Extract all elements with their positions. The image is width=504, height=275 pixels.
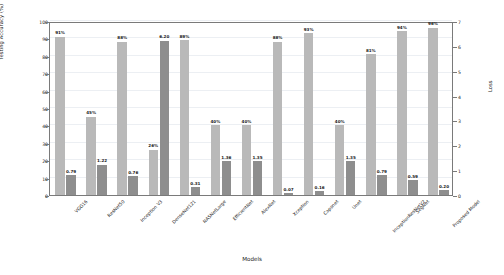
bar-loss (191, 187, 201, 195)
bar-accuracy (428, 28, 438, 195)
bar-chart: Testing Accuracy (%) Loss Models 0102030… (0, 0, 504, 275)
bar-accuracy (242, 125, 252, 195)
bar-value-label-accuracy: 45% (86, 110, 96, 115)
bar-value-label-accuracy: 81% (366, 48, 376, 53)
y-tick-mark-right (453, 47, 457, 48)
bar-value-label-loss: 0.16 (315, 185, 325, 190)
y-tick-mark-right (453, 121, 457, 122)
bar-value-label-accuracy: 91% (55, 30, 65, 35)
bar-accuracy (304, 33, 314, 195)
bar-value-label-accuracy: 88% (117, 35, 127, 40)
gridline (50, 107, 452, 108)
gridline (50, 55, 452, 56)
x-axis-label: Unet (351, 199, 362, 210)
y-axis-left-title: Testing Accuracy (%) (0, 0, 4, 60)
bar-value-label-loss: 0.20 (439, 184, 449, 189)
y-tick-label-right: 7 (458, 20, 478, 25)
bar-loss (128, 176, 138, 195)
bar-value-label-loss: 0.76 (128, 170, 138, 175)
bar-value-label-loss: 1.22 (97, 158, 107, 163)
bar-loss (160, 41, 170, 195)
y-tick-label-right: 6 (458, 44, 478, 49)
x-axis-label: Capsnet (323, 199, 340, 216)
gridline (50, 90, 452, 91)
bar-accuracy (55, 37, 65, 195)
y-tick-mark-right (453, 72, 457, 73)
x-axis-label: VGG16 (73, 199, 88, 214)
y-tick-label-right: 4 (458, 94, 478, 99)
y-tick-label-right: 5 (458, 69, 478, 74)
bar-value-label-accuracy: 40% (211, 119, 221, 124)
y-tick-mark-right (453, 22, 457, 23)
y-tick-label-right: 0 (458, 194, 478, 199)
x-axis-label: Inception V3 (139, 199, 163, 223)
gridline (50, 37, 452, 38)
y-tick-mark-left (45, 196, 49, 197)
y-tick-mark-right (453, 196, 457, 197)
y-tick-mark-right (453, 146, 457, 147)
bar-accuracy (273, 42, 283, 195)
bar-loss (222, 161, 232, 195)
bar-value-label-loss: 1.36 (221, 155, 231, 160)
x-axis-label: EfficientNet (232, 199, 254, 221)
bar-loss (66, 175, 76, 195)
bar-value-label-loss: 1.35 (252, 155, 262, 160)
bar-accuracy (335, 125, 345, 195)
x-axis-title: Models (0, 256, 504, 262)
bar-value-label-accuracy: 40% (335, 119, 345, 124)
y-tick-mark-right (453, 171, 457, 172)
bar-value-label-accuracy: 40% (242, 119, 252, 124)
bar-loss (346, 161, 356, 195)
bar-loss (315, 191, 325, 195)
bar-loss (408, 180, 418, 195)
y-tick-label-right: 1 (458, 169, 478, 174)
bar-value-label-accuracy: 89% (179, 34, 189, 39)
bar-accuracy (211, 125, 221, 195)
bar-value-label-loss: 0.79 (66, 169, 76, 174)
x-axis-label: NASNetLarge (202, 199, 227, 224)
x-axis-label: SegNet (415, 199, 430, 214)
x-axis-label: AlexNet (260, 199, 276, 215)
bar-loss (284, 193, 294, 195)
gridline (50, 72, 452, 73)
bar-loss (377, 175, 387, 195)
bar-value-label-loss: 6.20 (159, 34, 169, 39)
bar-accuracy (397, 31, 407, 195)
bar-value-label-loss: 1.35 (346, 155, 356, 160)
bar-loss (253, 161, 263, 195)
y-tick-label-right: 3 (458, 119, 478, 124)
bar-accuracy (149, 150, 159, 195)
bar-accuracy (86, 117, 96, 195)
bar-loss (439, 190, 449, 195)
bar-value-label-accuracy: 96% (428, 21, 438, 26)
bar-value-label-accuracy: 94% (397, 25, 407, 30)
bar-accuracy (366, 54, 376, 195)
x-axis-label: ResNet50 (106, 199, 125, 218)
plot-area: 91%0.7945%1.2288%0.7626%6.2089%0.3140%1.… (49, 22, 453, 196)
bar-value-label-loss: 0.59 (408, 174, 418, 179)
x-axis-label: DenseNet121 (171, 199, 197, 225)
bar-accuracy (117, 42, 127, 195)
bar-value-label-loss: 0.31 (190, 181, 200, 186)
y-tick-mark-right (453, 97, 457, 98)
bar-value-label-loss: 0.79 (377, 169, 387, 174)
y-tick-label-right: 2 (458, 144, 478, 149)
bar-value-label-loss: 0.07 (284, 187, 294, 192)
x-axis-label: Proposed Model (452, 199, 481, 228)
bar-value-label-accuracy: 88% (273, 35, 283, 40)
bar-value-label-accuracy: 93% (304, 27, 314, 32)
bar-value-label-accuracy: 26% (148, 143, 158, 148)
y-axis-right-title: Loss (487, 81, 493, 92)
x-axis-label: Xception (292, 199, 310, 217)
bar-loss (97, 165, 107, 195)
gridline (50, 20, 452, 21)
bar-accuracy (180, 40, 190, 195)
